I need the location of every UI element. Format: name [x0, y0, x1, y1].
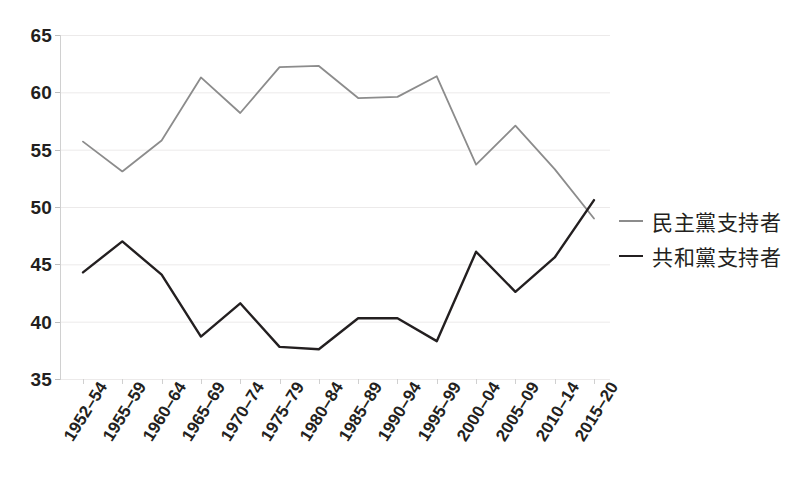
legend-label-republican: 共和黨支持者	[652, 241, 781, 271]
legend-item-democrat[interactable]: 民主黨支持者	[619, 203, 799, 238]
x-tick-mark-1	[122, 379, 123, 384]
x-tick-mark-10	[476, 379, 477, 384]
legend-item-republican[interactable]: 共和黨支持者	[619, 238, 799, 273]
x-axis: 1952–541955–591960–641965–691970–741975–…	[0, 379, 700, 481]
y-tick-label-50: 50	[0, 198, 52, 217]
x-tick-mark-6	[319, 379, 320, 384]
legend-label-democrat: 民主黨支持者	[652, 206, 781, 236]
line-chart: 65605550454035 1952–541955–591960–641965…	[0, 0, 801, 481]
chart-legend: 民主黨支持者 共和黨支持者	[619, 203, 799, 273]
x-tick-mark-9	[437, 379, 438, 384]
series-line-0	[83, 66, 594, 219]
x-tick-mark-13	[594, 379, 595, 384]
x-tick-mark-12	[555, 379, 556, 384]
y-tick-label-60: 60	[0, 83, 52, 102]
plot-area	[61, 35, 610, 379]
x-tick-mark-3	[201, 379, 202, 384]
x-tick-mark-8	[397, 379, 398, 384]
x-tick-mark-0	[83, 379, 84, 384]
legend-swatch-republican	[619, 255, 643, 257]
y-tick-label-65: 65	[0, 26, 52, 45]
y-tick-label-55: 55	[0, 140, 52, 159]
x-tick-mark-7	[358, 379, 359, 384]
x-tick-mark-2	[162, 379, 163, 384]
series-line-1	[83, 200, 594, 349]
x-tick-mark-4	[240, 379, 241, 384]
series-lines	[61, 35, 610, 379]
legend-swatch-democrat	[619, 220, 643, 222]
x-tick-mark-5	[280, 379, 281, 384]
x-tick-mark-11	[515, 379, 516, 384]
y-tick-label-40: 40	[0, 312, 52, 331]
y-tick-label-45: 45	[0, 255, 52, 274]
